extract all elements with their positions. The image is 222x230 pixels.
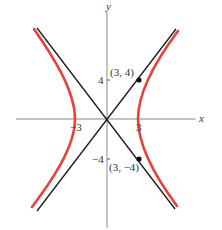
tick-label-4: 4: [98, 74, 104, 86]
x-axis-label: x: [198, 112, 204, 124]
hyperbola-chart: y x −3 3 4 −4 (3, 4) (3, −4): [0, 0, 222, 230]
hyperbola-left-branch: [32, 29, 75, 207]
point-3-4: [136, 77, 141, 82]
point-label-lower: (3, −4): [109, 161, 139, 174]
tick-label-neg4: −4: [92, 153, 104, 165]
tick-label-neg3: −3: [70, 121, 82, 133]
y-axis-label: y: [105, 0, 111, 12]
tick-label-3: 3: [136, 121, 142, 133]
point-label-upper: (3, 4): [110, 66, 134, 79]
